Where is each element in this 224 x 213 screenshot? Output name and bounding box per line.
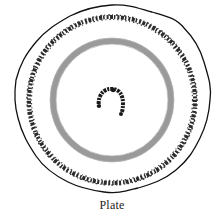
- figure-caption: Plate: [0, 198, 224, 213]
- plate-illustration: [0, 0, 224, 196]
- plate-rim: [15, 5, 211, 193]
